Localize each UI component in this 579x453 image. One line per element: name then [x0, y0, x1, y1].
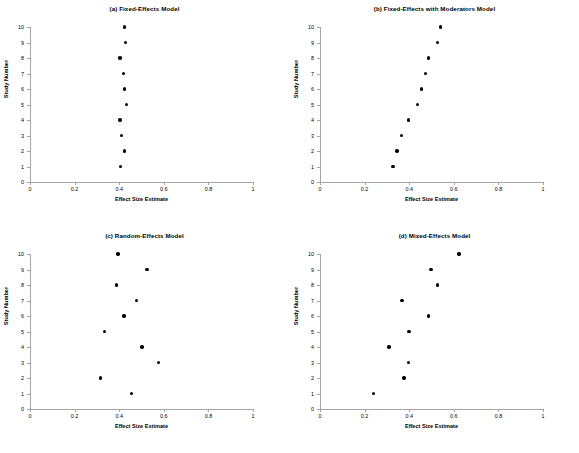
panel-a: (a) Fixed-Effects Model Effect Size Esti… — [0, 0, 289, 226]
data-point — [387, 345, 390, 348]
panel-b-y-tick-label: 8 — [290, 55, 314, 61]
panel-b-x-tick — [409, 182, 410, 185]
panel-b-y-tick — [317, 74, 320, 75]
data-point — [457, 252, 460, 255]
panel-b-title: (b) Fixed-Effects with Moderators Model — [290, 5, 579, 12]
panel-d-x-axis-title: Effect Size Estimate — [320, 423, 543, 429]
panel-b-y-tick — [317, 105, 320, 106]
panel-a-title: (a) Fixed-Effects Model — [0, 5, 289, 12]
data-point — [427, 56, 430, 59]
panel-c-y-tick — [27, 270, 30, 271]
panel-c-x-tick-label: 0.2 — [71, 413, 79, 419]
panel-d-y-tick — [317, 332, 320, 333]
panel-c-x-axis-title: Effect Size Estimate — [30, 423, 253, 429]
panel-c-y-tick-label: 9 — [0, 267, 24, 273]
panel-d-y-tick-label: 9 — [290, 267, 314, 273]
panel-b-x-tick — [365, 182, 366, 185]
panel-a-x-axis-line — [30, 182, 253, 183]
data-point — [115, 283, 118, 286]
panel-a-x-axis-title: Effect Size Estimate — [30, 196, 253, 202]
panel-c-x-axis-line — [30, 409, 253, 410]
panel-c-y-tick — [27, 301, 30, 302]
panel-b-y-tick-label: 9 — [290, 40, 314, 46]
panel-a-y-tick-label: 4 — [0, 117, 24, 123]
data-point — [416, 103, 419, 106]
panel-d-x-tick-label: 0.8 — [495, 413, 503, 419]
data-point — [122, 72, 125, 75]
panel-a-y-tick — [27, 43, 30, 44]
panel-d-y-tick-label: 6 — [290, 313, 314, 319]
data-point — [118, 56, 121, 59]
panel-d-x-tick — [498, 409, 499, 412]
panel-a-y-tick — [27, 151, 30, 152]
figure-panel-grid: (a) Fixed-Effects Model Effect Size Esti… — [0, 0, 579, 453]
panel-b-y-tick-label: 10 — [290, 24, 314, 30]
panel-c-y-tick-label: 0 — [0, 406, 24, 412]
data-point — [400, 134, 403, 137]
panel-c-x-tick — [253, 409, 254, 412]
panel-c-y-tick — [27, 254, 30, 255]
panel-b-y-tick — [317, 136, 320, 137]
panel-d-y-tick — [317, 301, 320, 302]
panel-a-x-tick-label: 0.8 — [205, 186, 213, 192]
panel-d-y-tick-label: 2 — [290, 375, 314, 381]
panel-c-x-tick — [119, 409, 120, 412]
panel-c-y-tick-label: 6 — [0, 313, 24, 319]
panel-a-x-tick-label: 0 — [29, 186, 32, 192]
panel-b-y-tick-label: 0 — [290, 179, 314, 185]
data-point — [119, 165, 122, 168]
data-point — [120, 134, 123, 137]
panel-a-y-tick-label: 7 — [0, 71, 24, 77]
data-point — [424, 72, 427, 75]
panel-c-x-tick — [208, 409, 209, 412]
panel-b-y-tick-label: 7 — [290, 71, 314, 77]
panel-c-x-tick — [164, 409, 165, 412]
panel-a-y-tick-label: 3 — [0, 133, 24, 139]
data-point — [436, 283, 439, 286]
data-point — [439, 25, 442, 28]
panel-d-x-tick — [365, 409, 366, 412]
panel-b-x-tick-label: 0.4 — [405, 186, 413, 192]
panel-c: (c) Random-Effects Model Effect Size Est… — [0, 227, 289, 453]
panel-b-x-tick-label: 0.8 — [495, 186, 503, 192]
panel-c-y-tick — [27, 316, 30, 317]
panel-d-y-tick-label: 1 — [290, 391, 314, 397]
panel-c-y-tick-label: 7 — [0, 298, 24, 304]
panel-a-y-tick — [27, 120, 30, 121]
panel-d-x-axis-line — [320, 409, 543, 410]
panel-b-x-tick — [543, 182, 544, 185]
panel-a-y-tick-label: 5 — [0, 102, 24, 108]
panel-b-y-tick-label: 6 — [290, 86, 314, 92]
panel-a-y-tick — [27, 89, 30, 90]
data-point — [436, 41, 439, 44]
panel-b-x-axis-title: Effect Size Estimate — [320, 196, 543, 202]
panel-d-x-tick-label: 0 — [319, 413, 322, 419]
data-point — [122, 314, 125, 317]
panel-b-y-tick-label: 2 — [290, 148, 314, 154]
panel-c-y-tick-label: 2 — [0, 375, 24, 381]
panel-a-x-tick — [253, 182, 254, 185]
panel-a-y-tick — [27, 74, 30, 75]
panel-a-y-tick-label: 8 — [0, 55, 24, 61]
panel-c-y-tick — [27, 378, 30, 379]
panel-d-y-tick-label: 0 — [290, 406, 314, 412]
panel-c-plot-area — [30, 254, 253, 409]
panel-a-x-tick-label: 0.4 — [115, 186, 123, 192]
panel-c-x-tick-label: 0.4 — [115, 413, 123, 419]
panel-c-y-tick — [27, 409, 30, 410]
data-point — [407, 118, 410, 121]
panel-d: (d) Mixed-Effects Model Effect Size Esti… — [290, 227, 579, 453]
data-point — [116, 252, 119, 255]
panel-b-y-tick — [317, 58, 320, 59]
panel-b-x-tick — [454, 182, 455, 185]
data-point — [118, 118, 121, 121]
panel-d-y-tick-label: 7 — [290, 298, 314, 304]
panel-d-y-tick-label: 8 — [290, 282, 314, 288]
panel-c-y-tick-label: 1 — [0, 391, 24, 397]
panel-b-x-axis-line — [320, 182, 543, 183]
panel-d-title: (d) Mixed-Effects Model — [290, 232, 579, 239]
panel-c-y-tick — [27, 347, 30, 348]
data-point — [391, 165, 394, 168]
panel-c-x-tick — [75, 409, 76, 412]
panel-c-y-tick — [27, 332, 30, 333]
